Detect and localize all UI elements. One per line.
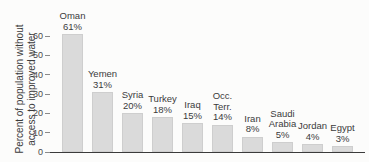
bar-label-percent: 18% bbox=[148, 105, 177, 116]
bar bbox=[182, 123, 203, 152]
bar-label-percent: 4% bbox=[298, 132, 327, 143]
bar-label-percent: 8% bbox=[244, 124, 260, 135]
y-axis-tick-label: 10 bbox=[29, 128, 43, 138]
y-axis-tick: 10 bbox=[29, 127, 50, 138]
bar bbox=[92, 92, 113, 152]
bar-label: Syria20% bbox=[122, 90, 144, 111]
bar-label: Jordan4% bbox=[298, 121, 327, 142]
bar-label: Occ.Terr.14% bbox=[213, 91, 233, 123]
y-axis-tick-label: 30 bbox=[29, 89, 43, 99]
y-axis-tick-mark bbox=[45, 94, 50, 95]
bar bbox=[152, 117, 173, 152]
bar-label-percent: 15% bbox=[183, 111, 202, 122]
y-axis-tick-mark bbox=[45, 132, 50, 133]
y-axis-tick: 50 bbox=[29, 50, 50, 61]
bar bbox=[302, 144, 323, 152]
plot-area: 0102030405060Oman61%Yemen31%Syria20%Turk… bbox=[50, 24, 365, 153]
y-axis-tick-label: 40 bbox=[29, 70, 43, 80]
bar-label: Iraq15% bbox=[183, 100, 202, 121]
bar bbox=[332, 146, 353, 152]
bar-label-name: Syria bbox=[122, 90, 144, 101]
bar-chart: Percent of population without access to … bbox=[0, 0, 369, 162]
bar-label: SaudiArabia5% bbox=[269, 109, 296, 141]
bar-label-percent: 61% bbox=[60, 22, 86, 33]
y-axis-tick: 20 bbox=[29, 108, 50, 119]
bar-label: Yemen31% bbox=[88, 69, 117, 90]
y-axis-tick: 30 bbox=[29, 89, 50, 100]
bar-label-name: Iraq bbox=[183, 100, 202, 111]
y-axis-tick-label: 60 bbox=[29, 31, 43, 41]
bar bbox=[212, 125, 233, 152]
bar-label-name: Occ. bbox=[213, 91, 233, 102]
bar bbox=[62, 34, 83, 152]
bar-label: Iran8% bbox=[244, 114, 260, 135]
y-axis-tick-mark bbox=[45, 36, 50, 37]
y-axis-tick-label: 50 bbox=[29, 50, 43, 60]
bar-label-percent: 3% bbox=[330, 134, 354, 145]
y-axis-title-line-1: Percent of population without bbox=[14, 25, 26, 154]
bar-label-name: Iran bbox=[244, 114, 260, 125]
y-axis-tick: 0 bbox=[29, 147, 50, 158]
y-axis-tick: 60 bbox=[29, 31, 50, 42]
bar-label-percent: 5% bbox=[269, 130, 296, 141]
bar-label-name: Saudi bbox=[269, 109, 296, 120]
bar-label: Turkey18% bbox=[148, 94, 177, 115]
bar bbox=[272, 142, 293, 152]
y-axis-tick-mark bbox=[45, 74, 50, 75]
bar-label-name: Yemen bbox=[88, 69, 117, 80]
bar-label-percent: 20% bbox=[122, 101, 144, 112]
y-axis-tick-mark bbox=[45, 113, 50, 114]
bar-label-percent: 14% bbox=[213, 112, 233, 123]
y-axis-tick-mark bbox=[45, 152, 50, 153]
y-axis-tick-label: 0 bbox=[29, 147, 43, 157]
bar bbox=[122, 113, 143, 152]
bar-label-percent: 31% bbox=[88, 80, 117, 91]
bar-label-name: Jordan bbox=[298, 121, 327, 132]
bar-label: Egypt3% bbox=[330, 123, 354, 144]
bar-label-name: Oman bbox=[60, 11, 86, 22]
bar-label-name: Egypt bbox=[330, 123, 354, 134]
bar-label: Oman61% bbox=[60, 11, 86, 32]
bar-label-name: Turkey bbox=[148, 94, 177, 105]
y-axis-tick-label: 20 bbox=[29, 108, 43, 118]
y-axis-tick: 40 bbox=[29, 69, 50, 80]
y-axis-tick-mark bbox=[45, 55, 50, 56]
bar bbox=[242, 137, 263, 152]
